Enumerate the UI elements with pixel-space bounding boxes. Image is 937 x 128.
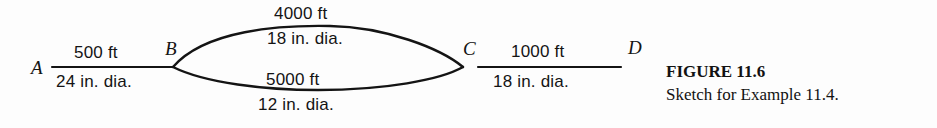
node-label-d: D — [628, 38, 642, 57]
figure-caption: FIGURE 11.6 Sketch for Example 11.4. — [666, 62, 926, 106]
figure-caption-title: FIGURE 11.6 — [666, 62, 926, 82]
node-label-a: A — [31, 58, 43, 77]
pipe-bc-lower-length-label: 5000 ft — [266, 71, 319, 88]
pipe-ab-length-label: 500 ft — [74, 44, 118, 61]
pipe-bc-upper-length-label: 4000 ft — [274, 5, 327, 22]
pipe-ab-diameter-label: 24 in. dia. — [56, 73, 132, 90]
pipe-bc-lower-diameter-label: 12 in. dia. — [258, 96, 334, 113]
node-label-c: C — [463, 39, 476, 58]
figure-container: A B C D 500 ft 24 in. dia. 4000 ft 18 in… — [0, 0, 937, 128]
pipe-bc-upper-diameter-label: 18 in. dia. — [267, 30, 343, 47]
pipe-cd-length-label: 1000 ft — [511, 43, 564, 60]
node-label-b: B — [165, 39, 177, 58]
pipe-network-diagram: A B C D 500 ft 24 in. dia. 4000 ft 18 in… — [0, 0, 660, 128]
pipe-cd-diameter-label: 18 in. dia. — [493, 73, 569, 90]
figure-caption-subtitle: Sketch for Example 11.4. — [666, 84, 926, 105]
